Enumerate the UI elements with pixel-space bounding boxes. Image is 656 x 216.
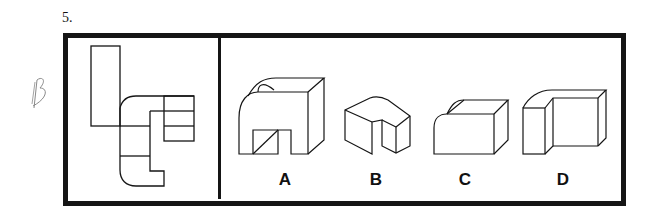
- option-d-label[interactable]: D: [548, 170, 578, 190]
